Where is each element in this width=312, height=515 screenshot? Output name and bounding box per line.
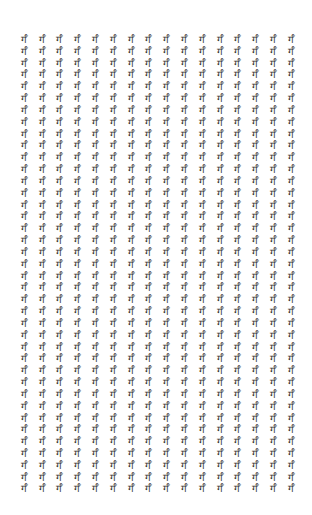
glyph-cell: र्गँ <box>15 483 33 495</box>
glyph-cell: र्गँ <box>246 105 264 117</box>
glyph-cell: र्गँ <box>282 259 300 271</box>
glyph-cell: र्गँ <box>211 294 229 306</box>
glyph-cell: र्गँ <box>86 318 104 330</box>
glyph-cell: र्गँ <box>104 401 122 413</box>
glyph-cell: र्गँ <box>86 105 104 117</box>
glyph-cell: र्गँ <box>282 176 300 188</box>
glyph-cell: र्गँ <box>15 424 33 436</box>
glyph-cell: र्गँ <box>211 117 229 129</box>
glyph-cell: र्गँ <box>68 306 86 318</box>
glyph-cell: र्गँ <box>15 353 33 365</box>
glyph-cell: र्गँ <box>15 117 33 129</box>
glyph-cell: र्गँ <box>175 282 193 294</box>
glyph-cell: र्गँ <box>140 353 158 365</box>
glyph-cell: र्गँ <box>51 188 69 200</box>
glyph-cell: र्गँ <box>104 271 122 283</box>
glyph-cell: र्गँ <box>68 377 86 389</box>
glyph-cell: र्गँ <box>264 188 282 200</box>
glyph-cell: र्गँ <box>15 259 33 271</box>
glyph-cell: र्गँ <box>211 377 229 389</box>
glyph-cell: र्गँ <box>229 377 247 389</box>
glyph-cell: र्गँ <box>86 211 104 223</box>
glyph-cell: र्गँ <box>264 223 282 235</box>
glyph-cell: र्गँ <box>86 353 104 365</box>
glyph-cell: र्गँ <box>15 413 33 425</box>
glyph-cell: र्गँ <box>264 129 282 141</box>
glyph-cell: र्गँ <box>68 200 86 212</box>
glyph-cell: र्गँ <box>246 377 264 389</box>
glyph-cell: र्गँ <box>68 140 86 152</box>
glyph-cell: र्गँ <box>104 164 122 176</box>
glyph-cell: र्गँ <box>122 436 140 448</box>
glyph-cell: र्गँ <box>211 342 229 354</box>
glyph-cell: र्गँ <box>15 93 33 105</box>
glyph-cell: र्गँ <box>211 81 229 93</box>
glyph-cell: र्गँ <box>282 401 300 413</box>
glyph-cell: र्गँ <box>157 365 175 377</box>
glyph-cell: र्गँ <box>175 247 193 259</box>
glyph-cell: र्गँ <box>33 436 51 448</box>
glyph-cell: र्गँ <box>229 294 247 306</box>
glyph-cell: र्गँ <box>51 223 69 235</box>
glyph-cell: र्गँ <box>15 436 33 448</box>
glyph-cell: र्गँ <box>51 294 69 306</box>
glyph-cell: र्गँ <box>122 282 140 294</box>
glyph-cell: र्गँ <box>33 365 51 377</box>
glyph-cell: र्गँ <box>122 460 140 472</box>
glyph-cell: र्गँ <box>157 140 175 152</box>
glyph-cell: र्गँ <box>264 377 282 389</box>
glyph-cell: र्गँ <box>104 436 122 448</box>
glyph-cell: र्गँ <box>229 483 247 495</box>
glyph-cell: र्गँ <box>86 129 104 141</box>
glyph-cell: र्गँ <box>68 247 86 259</box>
glyph-cell: र्गँ <box>122 271 140 283</box>
glyph-cell: र्गँ <box>122 140 140 152</box>
glyph-cell: र्गँ <box>211 211 229 223</box>
glyph-cell: र्गँ <box>264 58 282 70</box>
glyph-cell: र्गँ <box>33 164 51 176</box>
glyph-cell: र्गँ <box>122 81 140 93</box>
glyph-cell: र्गँ <box>229 436 247 448</box>
glyph-cell: र्गँ <box>15 294 33 306</box>
glyph-cell: र्गँ <box>140 294 158 306</box>
glyph-cell: र्गँ <box>51 81 69 93</box>
glyph-cell: र्गँ <box>68 342 86 354</box>
glyph-cell: र्गँ <box>157 46 175 58</box>
glyph-cell: र्गँ <box>122 176 140 188</box>
glyph-cell: र्गँ <box>157 318 175 330</box>
glyph-cell: र्गँ <box>51 176 69 188</box>
glyph-cell: र्गँ <box>229 282 247 294</box>
glyph-cell: र्गँ <box>51 259 69 271</box>
glyph-cell: र्गँ <box>211 413 229 425</box>
glyph-cell: र्गँ <box>51 413 69 425</box>
glyph-cell: र्गँ <box>68 188 86 200</box>
glyph-cell: र्गँ <box>211 58 229 70</box>
glyph-cell: र्गँ <box>211 93 229 105</box>
glyph-cell: र्गँ <box>68 235 86 247</box>
glyph-cell: र्गँ <box>140 200 158 212</box>
glyph-cell: र्गँ <box>68 424 86 436</box>
glyph-cell: र्गँ <box>86 448 104 460</box>
glyph-cell: र्गँ <box>140 436 158 448</box>
glyph-cell: र्गँ <box>33 424 51 436</box>
glyph-cell: र्गँ <box>193 282 211 294</box>
glyph-cell: र्गँ <box>282 188 300 200</box>
glyph-cell: र्गँ <box>175 176 193 188</box>
glyph-cell: र्गँ <box>282 282 300 294</box>
glyph-cell: र्गँ <box>282 58 300 70</box>
glyph-cell: र्गँ <box>15 247 33 259</box>
glyph-cell: र्गँ <box>51 330 69 342</box>
glyph-cell: र्गँ <box>264 259 282 271</box>
glyph-cell: र्गँ <box>33 140 51 152</box>
glyph-cell: र्गँ <box>264 330 282 342</box>
glyph-cell: र्गँ <box>51 247 69 259</box>
glyph-cell: र्गँ <box>246 330 264 342</box>
glyph-cell: र्गँ <box>51 436 69 448</box>
glyph-cell: र्गँ <box>264 105 282 117</box>
glyph-cell: र्गँ <box>246 342 264 354</box>
glyph-cell: र्गँ <box>122 483 140 495</box>
glyph-cell: र्गँ <box>86 81 104 93</box>
glyph-cell: र्गँ <box>282 472 300 484</box>
glyph-cell: र्गँ <box>246 401 264 413</box>
glyph-cell: र्गँ <box>140 152 158 164</box>
